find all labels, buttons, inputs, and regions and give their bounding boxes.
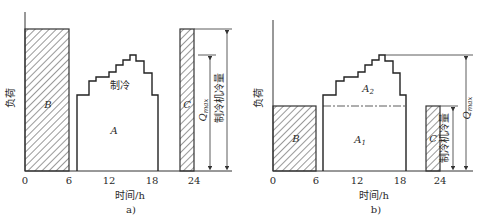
x-tick-24: 24	[188, 175, 201, 186]
cooling-label: 制冷	[110, 79, 130, 91]
diagram-canvas: 0 6 12 18 24 时间/h a) 负荷 B A C 制冷 Qmax 制冷…	[0, 0, 477, 220]
cooling-load-profile	[77, 55, 158, 171]
x-tick-0: 0	[22, 175, 28, 186]
y-axis-label: 负荷	[4, 88, 16, 108]
region-b-label: B	[43, 99, 51, 110]
x-axis-label: 时间/h	[359, 189, 389, 201]
region-a2-label: A2	[361, 83, 374, 96]
cooling-load-profile	[323, 55, 406, 171]
figure-a: 0 6 12 18 24 时间/h a) 负荷 B A C 制冷 Qmax 制冷…	[4, 12, 232, 215]
figure-caption: a)	[126, 204, 136, 215]
figure-b: 0 6 12 18 24 时间/h b) 负荷 B C A1 A2 Qmax 制…	[252, 20, 474, 215]
region-c-label: C	[183, 99, 191, 110]
x-axis-label: 时间/h	[115, 189, 145, 201]
qmax-label: Qmax	[197, 98, 210, 121]
region-b-label: B	[291, 133, 299, 144]
region-a-label: A	[109, 125, 117, 136]
qmax-label: Qmax	[461, 96, 474, 119]
x-tick-6: 6	[66, 175, 72, 186]
x-tick-18: 18	[146, 175, 159, 186]
chiller-capacity-label: 制冷机冷量	[438, 113, 450, 163]
x-tick-6: 6	[313, 175, 319, 186]
region-a1-label: A1	[353, 134, 366, 147]
chiller-capacity-label: 制冷机冷量	[213, 73, 225, 123]
x-tick-0: 0	[270, 175, 276, 186]
region-c-label: C	[429, 133, 437, 144]
x-tick-18: 18	[394, 175, 407, 186]
x-tick-24: 24	[434, 175, 447, 186]
svg-text:Qmax: Qmax	[197, 98, 210, 121]
svg-text:Qmax: Qmax	[461, 96, 474, 119]
figure-caption: b)	[371, 204, 381, 215]
x-tick-12: 12	[351, 175, 364, 186]
x-tick-12: 12	[103, 175, 116, 186]
y-axis-label: 负荷	[252, 88, 264, 108]
